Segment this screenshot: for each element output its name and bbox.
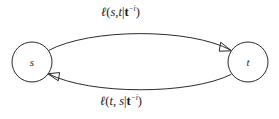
edge-s-to-t-label: ℓ(s,t|t−i) (101, 6, 140, 19)
edge-s-to-t-arrowhead-icon (220, 43, 232, 52)
edge-t-to-s-label: ℓ(t, s|t−i) (100, 95, 142, 108)
node-s: s (12, 42, 52, 82)
edge-t-to-s-label-cond-sup: −i (131, 93, 138, 102)
edge-t-to-s-path (49, 74, 231, 90)
edge-s-to-t-label-close-paren: ) (136, 5, 140, 19)
edge-t-to-s-label-close-paren: ) (138, 94, 142, 108)
diagram-canvas: s t ℓ(s,t|t−i) ℓ(t, s|t−i) (0, 0, 279, 119)
edge-s-to-t-label-cond-sup: −i (129, 4, 136, 13)
edge-s-to-t (49, 34, 232, 52)
edge-s-to-t-path (49, 34, 231, 51)
node-s-label: s (30, 56, 34, 68)
edge-t-to-s (48, 73, 231, 90)
node-t: t (228, 42, 268, 82)
